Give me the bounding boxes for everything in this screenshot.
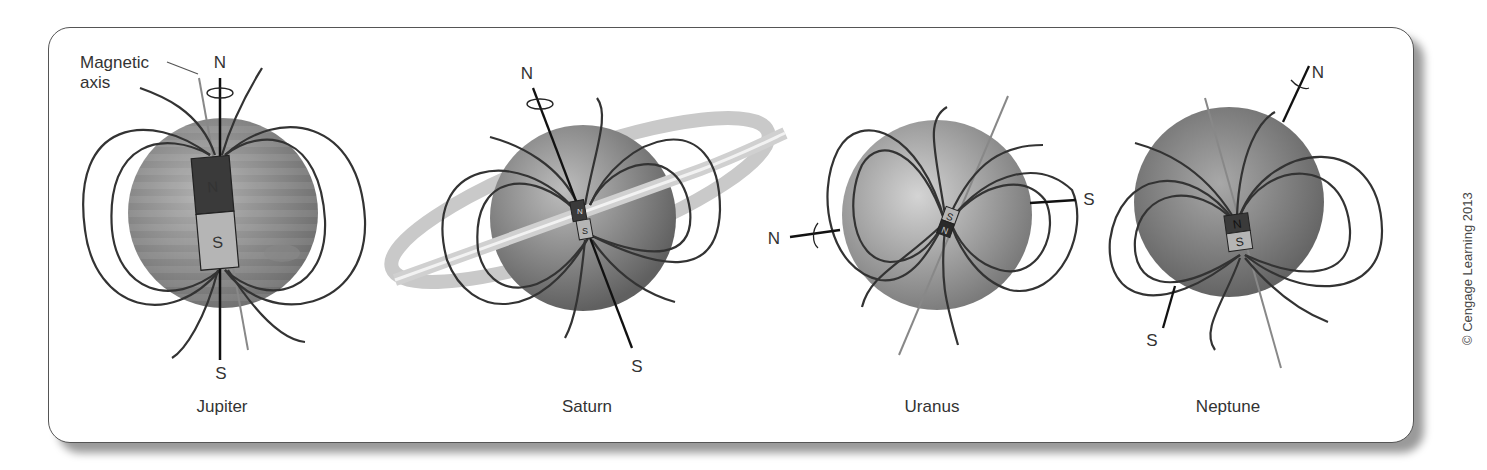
planet-jupiter: N S N S Jupiter: [83, 53, 365, 416]
rotation-north-label: N: [521, 64, 533, 83]
rotation-south-label: S: [1146, 331, 1157, 350]
rotation-north-label: N: [1312, 63, 1324, 82]
magnetic-axis-annotation: Magnetic axis: [80, 53, 198, 92]
rotation-arrow-icon: [814, 223, 819, 248]
uranus-globe: [842, 120, 1032, 310]
magnet-south-label: S: [212, 233, 224, 251]
planet-name-saturn: Saturn: [562, 397, 612, 416]
magnet-north-label: N: [577, 207, 583, 216]
rotation-south-label: S: [215, 364, 226, 383]
planet-name-neptune: Neptune: [1196, 397, 1260, 416]
annotation-line-1: Magnetic: [80, 53, 149, 72]
neptune-globe: [1134, 107, 1324, 297]
planet-saturn: N S N S Saturn: [376, 64, 785, 416]
magnet-north-label: N: [207, 177, 219, 195]
planet-neptune: N S N S Neptune: [1110, 63, 1382, 416]
copyright-notice: © Cengage Learning 2013: [1460, 192, 1475, 345]
rotation-axis-south: [1030, 200, 1076, 203]
great-red-spot: [264, 244, 300, 262]
annotation-leader-line: [167, 62, 198, 74]
rotation-axis-south: [1163, 286, 1175, 328]
bar-magnet: N S: [1224, 213, 1253, 252]
magnetic-field-diagram: N S N S Jupiter Magnetic axis: [0, 0, 1487, 470]
rotation-axis-north: [1283, 66, 1309, 122]
planet-name-jupiter: Jupiter: [196, 397, 247, 416]
rotation-north-label: N: [768, 229, 780, 248]
rotation-north-label: N: [214, 53, 226, 72]
magnet-south-label: S: [582, 226, 588, 236]
planet-name-uranus: Uranus: [905, 397, 960, 416]
rotation-south-label: S: [1083, 190, 1094, 209]
annotation-line-2: axis: [80, 73, 110, 92]
rotation-south-label: S: [631, 357, 642, 376]
planet-uranus: S N N S Uranus: [768, 96, 1095, 416]
